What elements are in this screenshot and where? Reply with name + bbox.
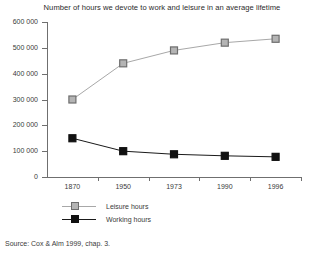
- series-1: [69, 35, 279, 103]
- legend-label: Leisure hours: [98, 203, 148, 210]
- chart-legend: Leisure hoursWorking hours: [62, 200, 237, 226]
- data-point-marker: [69, 135, 76, 142]
- data-point-marker: [69, 96, 76, 103]
- legend-line: [62, 206, 96, 207]
- legend-marker-icon: [71, 215, 79, 223]
- data-point-marker: [272, 35, 279, 42]
- series-2: [69, 135, 279, 161]
- legend-item-1: Leisure hours: [62, 200, 237, 213]
- legend-label: Working hours: [98, 216, 151, 223]
- data-point-marker: [272, 153, 279, 160]
- data-point-marker: [120, 60, 127, 67]
- data-point-marker: [171, 47, 178, 54]
- data-point-marker: [120, 148, 127, 155]
- data-point-marker: [221, 152, 228, 159]
- chart-figure: Number of hours we devote to work and le…: [0, 0, 324, 255]
- legend-line: [62, 219, 96, 220]
- legend-swatch: [62, 213, 98, 226]
- data-point-marker: [171, 151, 178, 158]
- legend-item-2: Working hours: [62, 213, 237, 226]
- source-note: Source: Cox & Alm 1999, chap. 3.: [5, 240, 110, 247]
- legend-swatch: [62, 200, 98, 213]
- data-point-marker: [221, 39, 228, 46]
- legend-marker-icon: [71, 202, 79, 210]
